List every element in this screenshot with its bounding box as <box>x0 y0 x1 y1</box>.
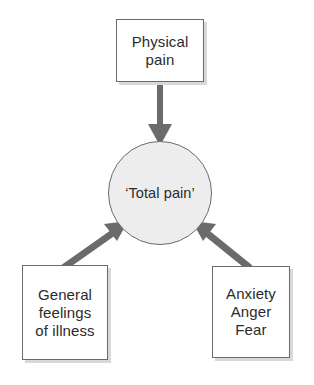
node-general-feelings-label: General feelings of illness <box>35 286 94 340</box>
node-total-pain[interactable]: ‘Total pain’ <box>108 141 212 245</box>
node-general-feelings[interactable]: General feelings of illness <box>22 265 108 360</box>
edge-general-to-total-shaft <box>63 230 117 268</box>
node-physical-pain[interactable]: Physical pain <box>116 19 204 82</box>
edge-general-to-total <box>63 221 128 268</box>
node-anxiety-anger-fear-label: Anxiety Anger Fear <box>226 285 276 339</box>
node-total-pain-label: ‘Total pain’ <box>125 184 195 202</box>
edge-anxiety-to-total-shaft <box>203 230 250 268</box>
edge-physical-to-total <box>148 82 172 146</box>
node-physical-pain-label: Physical pain <box>132 33 189 69</box>
edge-anxiety-to-total <box>192 221 250 268</box>
diagram-canvas: Physical pain ‘Total pain’ General feeli… <box>0 0 314 385</box>
node-anxiety-anger-fear[interactable]: Anxiety Anger Fear <box>212 266 290 358</box>
